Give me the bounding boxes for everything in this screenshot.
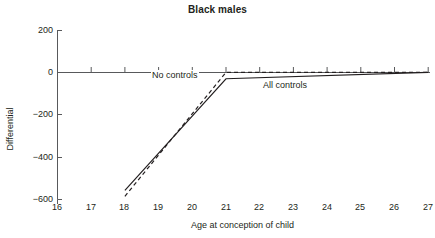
x-tick-marks (58, 67, 429, 73)
series-annotation-no-controls: No controls (151, 70, 199, 80)
chart-figure: Black males Differential Age at concepti… (0, 0, 435, 238)
plot-area (0, 0, 435, 238)
series-line-all-controls (125, 72, 428, 190)
series-annotation-all-controls: All controls (262, 80, 308, 90)
series-line-no-controls (125, 72, 428, 196)
